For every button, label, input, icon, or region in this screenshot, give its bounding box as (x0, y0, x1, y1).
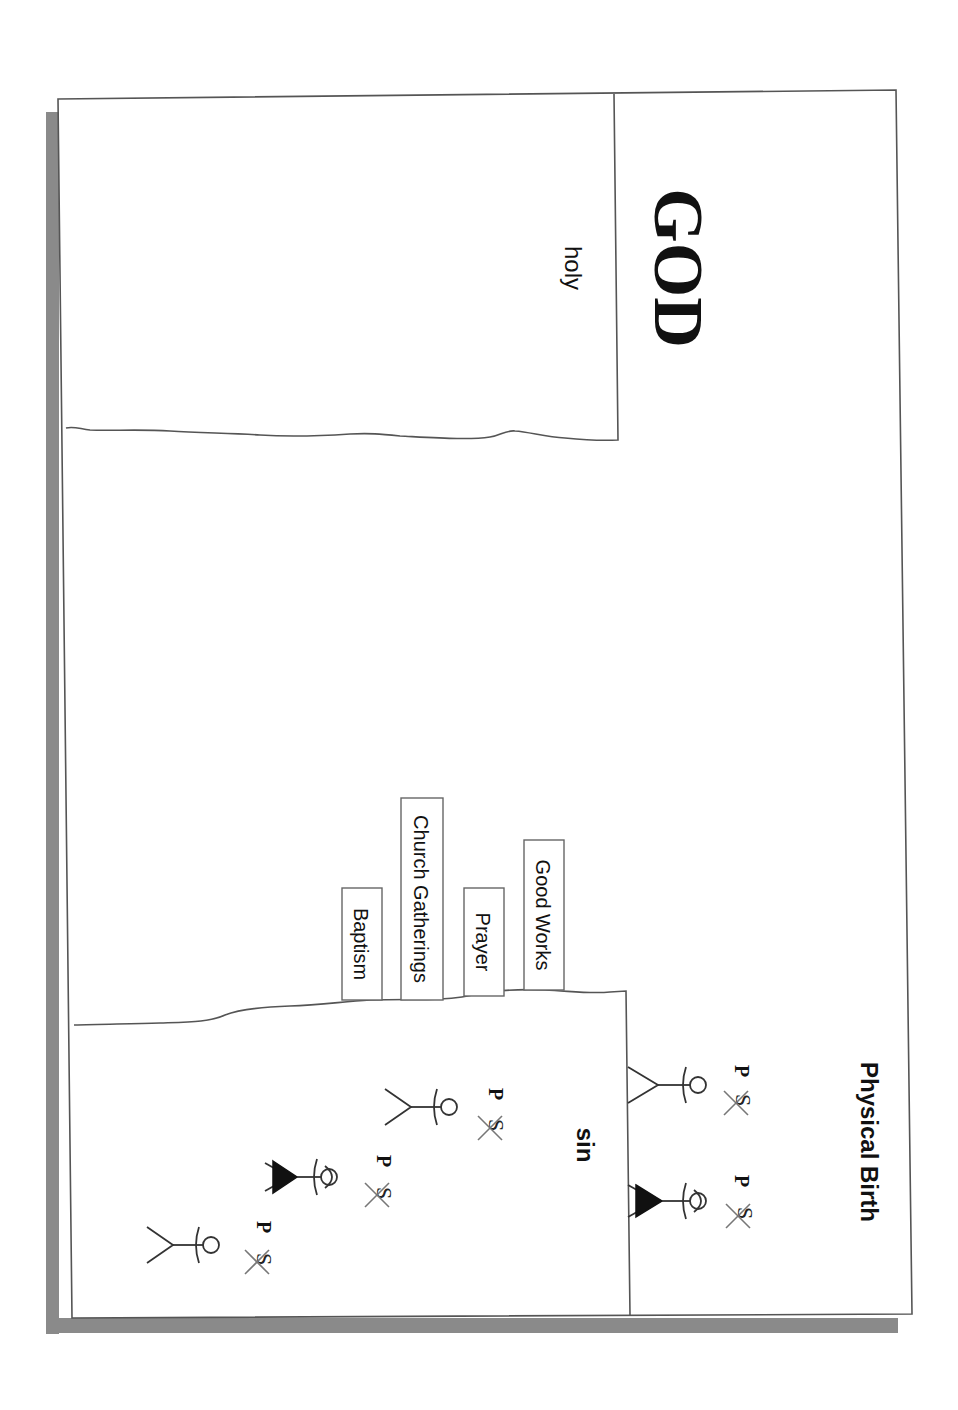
sin-cliff (74, 990, 630, 1315)
god-title: GOD (640, 188, 717, 347)
crossed-s-icon: S (365, 1183, 397, 1207)
svg-text:P: P (485, 1088, 507, 1100)
male-figure-icon (385, 1089, 457, 1125)
svg-text:P: P (731, 1065, 753, 1077)
crossed-s-icon: S (724, 1091, 756, 1115)
svg-text:Prayer: Prayer (472, 913, 494, 972)
sin-figure-1: P S (385, 1088, 509, 1140)
female-figure-icon (265, 1159, 337, 1195)
holy-label: holy (560, 246, 587, 290)
sin-figure-2: P S (265, 1155, 397, 1207)
crossed-s-icon: S (245, 1250, 277, 1274)
god-cliff (66, 94, 618, 440)
svg-text:Baptism: Baptism (350, 908, 372, 980)
bridge-attempt-prayer: Prayer (464, 888, 504, 996)
svg-text:P: P (731, 1175, 753, 1187)
sin-label: sin (572, 1128, 599, 1163)
svg-text:P: P (373, 1155, 395, 1167)
birth-figure-1: P S (628, 1065, 756, 1115)
page-shadow (46, 112, 898, 1334)
bridge-attempt-baptism: Baptism (342, 888, 382, 1000)
physical-birth-label: Physical Birth (856, 1062, 883, 1222)
crossed-s-icon: S (478, 1116, 509, 1140)
bridge-attempt-good-works: Good Works (524, 840, 564, 990)
sin-figure-3: P S (147, 1221, 277, 1274)
birth-figure-2: P S (628, 1175, 758, 1228)
male-figure-icon (628, 1067, 706, 1103)
bridge-attempt-church-gatherings: Church Gatherings (401, 798, 443, 1000)
male-figure-icon (147, 1227, 219, 1263)
diagram-canvas: GOD holy Physical Birth sin Good Works P… (0, 0, 958, 1410)
svg-text:Church Gatherings: Church Gatherings (410, 815, 432, 983)
crossed-s-icon: S (726, 1204, 758, 1228)
female-figure-icon (628, 1183, 706, 1219)
svg-text:Good Works: Good Works (532, 860, 554, 971)
svg-text:P: P (253, 1221, 275, 1233)
